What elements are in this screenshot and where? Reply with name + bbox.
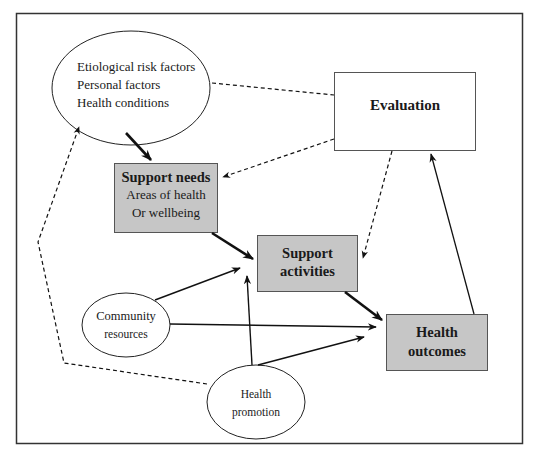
health-promotion-line-1: Health xyxy=(207,385,305,403)
health-outcomes-label: Health outcomes xyxy=(386,323,488,361)
health-promotion-line-2: promotion xyxy=(207,403,305,421)
support-activities-line-1: Support xyxy=(257,244,358,262)
support-needs-title: Support needs xyxy=(114,168,218,186)
edge-evaluation-to-support-needs xyxy=(223,139,334,177)
edge-support-activities-to-health-outcomes xyxy=(345,292,382,320)
support-needs-line-1: Areas of health xyxy=(114,186,218,204)
edge-community-to-health-outcomes xyxy=(170,324,376,327)
health-outcomes-line-2: outcomes xyxy=(386,342,488,361)
evaluation-label: Evaluation xyxy=(334,96,476,115)
etiological-line-1: Etiological risk factors xyxy=(77,58,195,76)
etiological-label: Etiological risk factors Personal factor… xyxy=(77,58,195,112)
support-activities-label: Support activities xyxy=(257,244,358,280)
edge-etiological-to-evaluation xyxy=(212,83,334,95)
health-outcomes-line-1: Health xyxy=(386,323,488,342)
community-resources-line-1: Community xyxy=(82,307,170,325)
etiological-line-2: Personal factors xyxy=(77,76,195,94)
edge-community-to-support-activities xyxy=(155,268,240,300)
edge-health-promotion-to-support-activities xyxy=(247,276,252,365)
edge-health-promotion-to-health-outcomes xyxy=(258,337,364,365)
support-needs-label: Support needs Areas of health Or wellbei… xyxy=(114,168,218,222)
diagram-canvas: Etiological risk factors Personal factor… xyxy=(0,0,535,459)
support-activities-line-2: activities xyxy=(257,262,358,280)
edge-health-outcomes-to-evaluation xyxy=(431,154,474,314)
edge-evaluation-to-support-activities xyxy=(363,151,392,258)
support-needs-line-2: Or wellbeing xyxy=(114,204,218,222)
community-resources-line-2: resources xyxy=(82,325,170,343)
edge-support-needs-to-support-activities xyxy=(212,233,253,259)
community-resources-label: Community resources xyxy=(82,307,170,343)
etiological-line-3: Health conditions xyxy=(77,94,195,112)
health-promotion-label: Health promotion xyxy=(207,385,305,421)
